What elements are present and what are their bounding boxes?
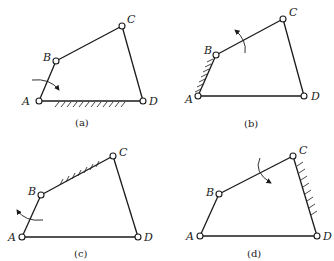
ground-hatch-ab	[195, 59, 213, 92]
link-cd	[293, 156, 317, 236]
joint-d	[140, 98, 146, 104]
label-b: B	[205, 186, 214, 199]
joint-b	[213, 52, 219, 58]
four-bar-linkage-figure: A B C D (a) A B C D (b)	[0, 0, 334, 261]
joint-b	[38, 192, 44, 198]
joint-a	[197, 233, 203, 239]
joint-d	[135, 234, 141, 240]
joint-c	[280, 16, 286, 22]
label-b: B	[27, 185, 36, 198]
caption-c: (c)	[74, 248, 88, 259]
link-ab	[22, 195, 41, 237]
label-b: B	[203, 44, 212, 57]
label-d: D	[322, 230, 332, 243]
panel-a: A B C D (a)	[21, 13, 158, 128]
label-a: A	[7, 231, 16, 244]
label-a: A	[185, 230, 194, 243]
link-bc	[41, 156, 113, 195]
label-a: A	[21, 95, 30, 108]
label-b: B	[42, 51, 51, 64]
link-cd	[283, 19, 304, 96]
label-c: C	[299, 144, 308, 157]
joint-b	[53, 58, 59, 64]
label-c: C	[127, 13, 136, 26]
label-d: D	[310, 90, 320, 103]
link-bc	[216, 19, 283, 55]
caption-a: (a)	[75, 117, 89, 128]
label-d: D	[148, 95, 158, 108]
panel-c: A B C D (c)	[7, 146, 153, 259]
joint-d	[301, 93, 307, 99]
caption-b: (b)	[244, 118, 258, 129]
link-ab	[200, 194, 219, 236]
label-c: C	[119, 146, 128, 159]
label-a: A	[184, 93, 193, 106]
ground-hatch-ad	[55, 102, 125, 107]
joint-d	[314, 233, 320, 239]
caption-d: (d)	[247, 248, 261, 259]
link-bc	[56, 26, 122, 61]
joint-c	[110, 153, 116, 159]
link-bc	[219, 156, 293, 194]
joint-c	[290, 153, 296, 159]
joint-a	[195, 93, 201, 99]
label-c: C	[289, 6, 298, 19]
joint-b	[216, 191, 222, 197]
link-cd	[122, 26, 143, 101]
link-ab	[198, 55, 216, 96]
joint-c	[119, 23, 125, 29]
joint-a	[36, 98, 42, 104]
ground-hatch-cd	[297, 162, 317, 215]
joint-a	[19, 234, 25, 240]
panel-d: A B C D (d)	[185, 144, 332, 259]
panel-b: A B C D (b)	[184, 6, 320, 129]
label-d: D	[143, 231, 153, 244]
link-cd	[113, 156, 138, 237]
